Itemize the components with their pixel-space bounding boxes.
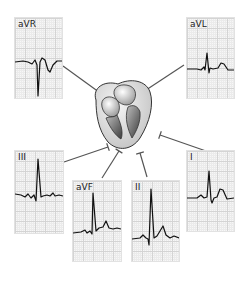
ecg-trace (187, 18, 234, 98)
arrow-head-icon (116, 149, 123, 153)
arrow-avf (102, 151, 119, 178)
lead-label: III (18, 152, 26, 163)
ecg-panel-ii: II (131, 180, 180, 262)
ecg-trace (132, 181, 179, 261)
arrow-iii (64, 147, 108, 162)
lead-label: I (190, 152, 193, 163)
ecg-panel-avl: aVL (186, 17, 235, 99)
lead-label: aVL (190, 19, 207, 30)
ecg-panel-avf: aVF (72, 180, 122, 262)
ecg-panel-i: I (186, 150, 235, 232)
arrow-ii (140, 153, 147, 177)
lead-label: aVF (76, 182, 93, 193)
ecg-panel-avr: aVR (14, 17, 63, 99)
arrow-i (160, 135, 206, 151)
ecg-panel-iii: III (14, 150, 64, 234)
lead-label: aVR (18, 19, 36, 30)
ecg-trace (15, 151, 63, 233)
heart-icon (95, 81, 151, 149)
arrow-avl (143, 65, 184, 92)
ecg-trace (187, 151, 234, 231)
ecg-trace (73, 181, 121, 261)
lead-label: II (135, 182, 140, 193)
ecg-trace (15, 18, 62, 98)
